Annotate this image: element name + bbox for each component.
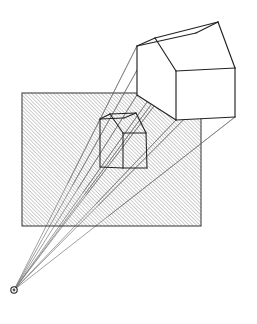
house-object-face (176, 68, 235, 120)
eye-point-center (13, 289, 16, 292)
diagram-canvas (0, 0, 257, 324)
center-of-projection-marker (11, 287, 17, 293)
perspective-projection-figure (0, 0, 257, 324)
